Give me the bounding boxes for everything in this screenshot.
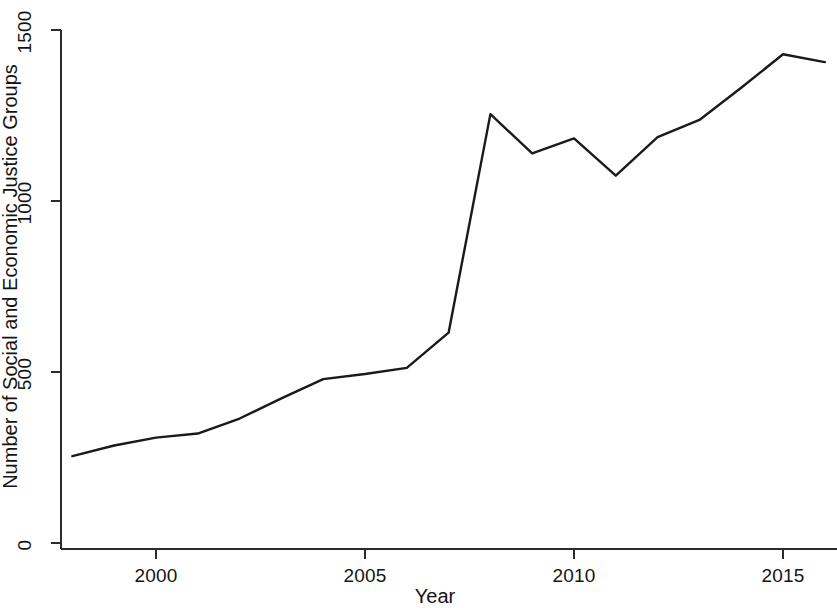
data-series-line (72, 54, 824, 456)
line-chart: 1500 1000 500 0 2000 2005 2010 2015 Numb… (0, 0, 837, 608)
x-tick-label-2000: 2000 (116, 565, 196, 587)
x-tick-label-2015: 2015 (743, 565, 823, 587)
y-axis-title: Number of Social and Economic Justice Gr… (0, 57, 22, 497)
x-tick-label-2005: 2005 (325, 565, 405, 587)
y-tick-label-1500: 1500 (14, 2, 36, 62)
x-tick-marks (156, 549, 783, 559)
x-axis-title: Year (390, 585, 480, 608)
y-tick-label-0: 0 (14, 529, 36, 561)
x-tick-label-2010: 2010 (534, 565, 614, 587)
axis-lines (61, 30, 837, 549)
y-tick-marks (51, 30, 61, 543)
plot-area (0, 0, 837, 608)
